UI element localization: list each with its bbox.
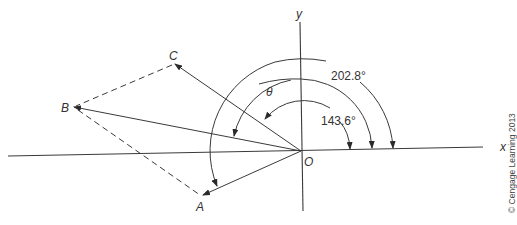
angle-143-6-label: 143.6° bbox=[321, 114, 356, 128]
labels: y x O A B C 143.6° θ 202.8° © Cengage Le… bbox=[61, 7, 517, 214]
vectors bbox=[74, 64, 301, 195]
vector-diagram: y x O A B C 143.6° θ 202.8° © Cengage Le… bbox=[0, 0, 517, 225]
dashed-lines bbox=[76, 65, 200, 195]
copyright-notice: © Cengage Learning 2013 bbox=[507, 113, 517, 213]
vector-ob bbox=[74, 107, 301, 151]
x-axis-label: x bbox=[499, 140, 507, 154]
origin-label: O bbox=[304, 155, 313, 169]
vector-oa bbox=[203, 151, 301, 195]
y-axis bbox=[300, 22, 303, 211]
arc-202-8-end bbox=[360, 82, 393, 148]
dashed-line-c-b bbox=[76, 65, 172, 106]
vector-oc bbox=[175, 64, 301, 151]
axes bbox=[8, 22, 483, 211]
angle-202-8-label: 202.8° bbox=[331, 69, 366, 83]
angle-theta-label: θ bbox=[266, 85, 273, 99]
y-axis-label: y bbox=[295, 7, 303, 21]
point-b-label: B bbox=[61, 101, 69, 115]
arc-theta bbox=[234, 80, 291, 136]
point-c-label: C bbox=[169, 49, 178, 63]
point-a-label: A bbox=[195, 200, 204, 214]
x-axis bbox=[8, 147, 483, 156]
